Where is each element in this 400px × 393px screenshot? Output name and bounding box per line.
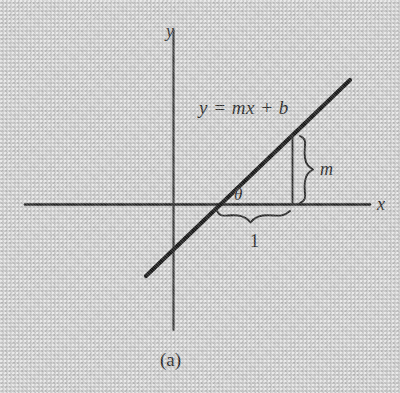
figure-panel: y x y = mx + b θ m 1 (a) (0, 0, 400, 393)
y-axis-label: y (166, 22, 174, 40)
diagram-canvas (0, 0, 400, 393)
run-brace (217, 211, 290, 223)
x-axis-label: x (377, 195, 385, 213)
run-label: 1 (250, 232, 259, 250)
figure-caption: (a) (160, 350, 181, 369)
rise-brace (300, 136, 313, 203)
angle-theta-label: θ (234, 186, 242, 203)
rise-label: m (320, 160, 333, 178)
line-equation-label: y = mx + b (199, 98, 289, 117)
